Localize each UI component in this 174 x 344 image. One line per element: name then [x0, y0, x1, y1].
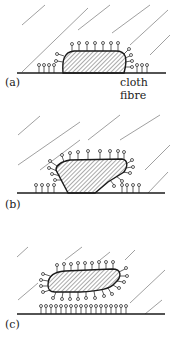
panel-c-label: (c): [5, 318, 20, 331]
panel-b: (b): [0, 110, 174, 225]
panel-b-diagram: [0, 110, 174, 225]
soil-particle: [48, 269, 120, 292]
cloth-fibre-annotation: cloth fibre: [120, 76, 174, 102]
panel-b-label: (b): [5, 198, 21, 211]
soil-particle: [63, 51, 126, 73]
panel-a: (a) cloth fibre: [0, 0, 174, 110]
panel-c-diagram: [0, 225, 174, 344]
panel-c: (c): [0, 225, 174, 344]
panel-a-label: (a): [5, 76, 20, 89]
